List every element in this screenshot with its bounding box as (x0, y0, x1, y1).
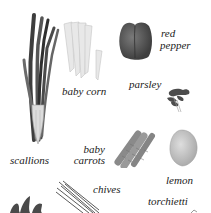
lemon-label: lemon (166, 175, 193, 186)
baby-corn-label: baby corn (62, 86, 106, 97)
chives-image (55, 180, 100, 213)
parsley-image (163, 86, 193, 114)
scallions-image (14, 10, 60, 148)
baby-corn-image (60, 20, 105, 82)
leafy-vegetable-image (8, 192, 48, 213)
scallions-label: scallions (10, 155, 49, 166)
torchietti-label: torchietti (148, 196, 188, 207)
vegetable-illustration: baby corn red pepper parsley (0, 0, 211, 213)
baby-carrots-label-line2: carrots (67, 155, 105, 166)
baby-carrots-image (112, 128, 156, 168)
red-pepper-label-line2: pepper (160, 40, 191, 51)
parsley-label: parsley (129, 79, 161, 90)
red-pepper-image (117, 20, 153, 62)
red-pepper-label-line1: red (161, 28, 175, 39)
lemon-image (166, 128, 200, 168)
torchietti-image (190, 209, 198, 213)
